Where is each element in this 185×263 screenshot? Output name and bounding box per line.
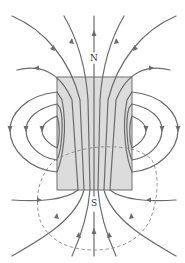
north-pole-label: N xyxy=(89,53,99,63)
bar-magnet-field-diagram xyxy=(0,0,185,263)
field-lines xyxy=(10,16,178,256)
south-pole-label: S xyxy=(90,198,98,208)
